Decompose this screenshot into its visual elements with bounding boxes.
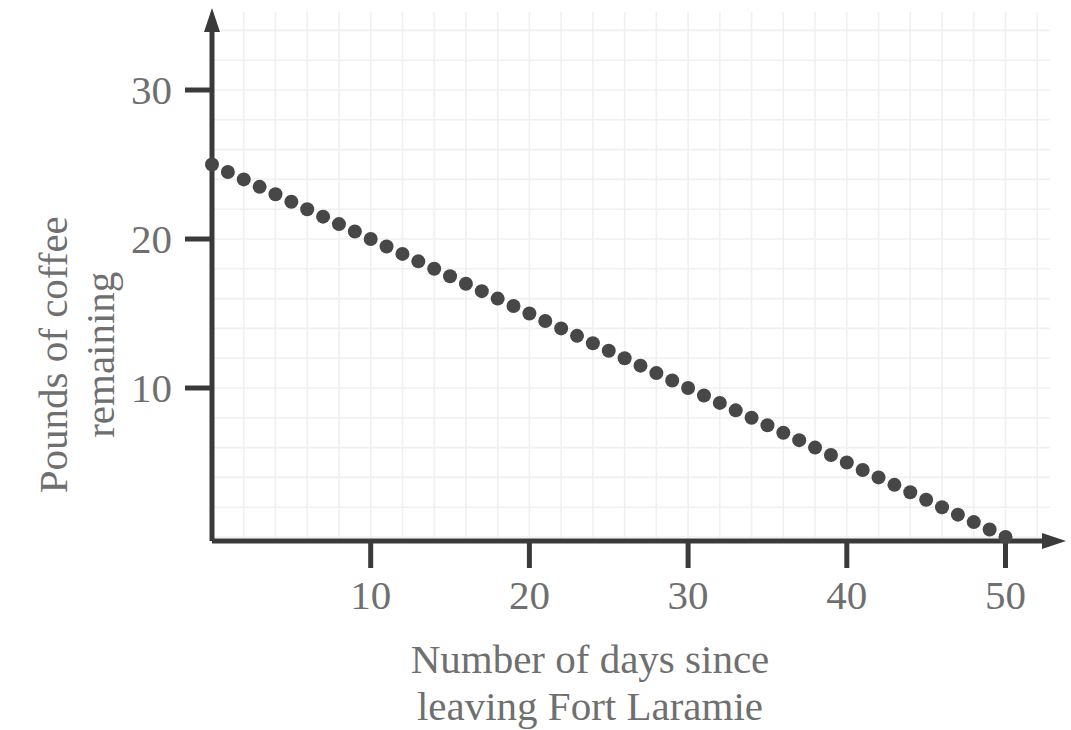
data-point	[395, 247, 409, 261]
y-axis-title-line-2: remaining	[77, 125, 124, 585]
data-point	[618, 351, 632, 365]
axes	[204, 8, 1066, 549]
data-point	[729, 403, 743, 417]
data-point	[649, 366, 663, 380]
data-point	[253, 180, 267, 194]
data-point	[380, 239, 394, 253]
data-point	[443, 269, 457, 283]
x-axis-title-line-1: Number of days since	[380, 636, 800, 683]
data-point	[856, 463, 870, 477]
data-point	[205, 158, 219, 172]
data-point	[268, 187, 282, 201]
data-point	[999, 530, 1013, 544]
data-point	[745, 411, 759, 425]
chart-figure: 1020304050 102030 Number of days since l…	[0, 0, 1071, 730]
data-point	[459, 277, 473, 291]
data-point	[316, 210, 330, 224]
x-tick-label: 10	[350, 575, 391, 616]
data-point	[697, 388, 711, 402]
y-axis-title: Pounds of coffee remaining	[30, 125, 123, 585]
data-point	[538, 314, 552, 328]
data-point	[776, 426, 790, 440]
data-point	[427, 262, 441, 276]
data-point	[967, 515, 981, 529]
y-tick-label: 30	[80, 70, 172, 111]
data-point	[903, 485, 917, 499]
data-point	[887, 478, 901, 492]
data-point	[491, 292, 505, 306]
data-point	[872, 470, 886, 484]
x-tick-label: 20	[509, 575, 550, 616]
data-point	[522, 307, 536, 321]
data-point	[919, 493, 933, 507]
data-point	[554, 321, 568, 335]
x-axis-arrow-icon	[1042, 533, 1066, 549]
data-point	[808, 441, 822, 455]
data-point-series	[205, 158, 1013, 545]
data-point	[760, 418, 774, 432]
data-point	[221, 165, 235, 179]
data-point	[681, 381, 695, 395]
data-point	[840, 456, 854, 470]
data-point	[713, 396, 727, 410]
x-axis-title: Number of days since leaving Fort Larami…	[380, 636, 800, 729]
data-point	[348, 225, 362, 239]
y-axis-arrow-icon	[204, 8, 220, 32]
data-point	[411, 254, 425, 268]
data-point	[602, 344, 616, 358]
data-point	[951, 508, 965, 522]
data-point	[633, 359, 647, 373]
x-tick-label: 40	[826, 575, 867, 616]
data-point	[364, 232, 378, 246]
data-point	[475, 284, 489, 298]
data-point	[507, 299, 521, 313]
x-tick-label: 50	[985, 575, 1026, 616]
gridlines	[212, 12, 1050, 539]
data-point	[586, 336, 600, 350]
x-axis-title-line-2: leaving Fort Laramie	[380, 683, 800, 730]
x-tick-label: 30	[668, 575, 709, 616]
data-point	[935, 500, 949, 514]
data-point	[824, 448, 838, 462]
data-point	[665, 374, 679, 388]
data-point	[792, 433, 806, 447]
data-point	[983, 523, 997, 537]
data-point	[300, 202, 314, 216]
data-point	[237, 172, 251, 186]
y-axis-title-line-1: Pounds of coffee	[30, 125, 77, 585]
data-point	[284, 195, 298, 209]
data-point	[570, 329, 584, 343]
data-point	[332, 217, 346, 231]
